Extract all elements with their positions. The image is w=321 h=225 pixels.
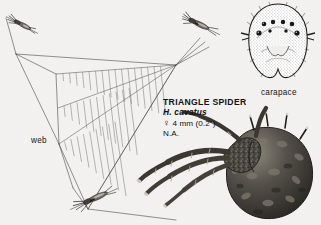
main-spider-figure bbox=[0, 0, 321, 225]
female-symbol-icon: ♀ bbox=[163, 118, 170, 128]
species-size: ♀ 4 mm (0.2″) bbox=[163, 119, 247, 128]
species-common-name: TRIANGLE SPIDER bbox=[163, 98, 247, 107]
carapace-caption: carapace bbox=[261, 88, 297, 97]
size-value: 4 mm (0.2″) bbox=[172, 119, 215, 128]
illustration-plate: TRIANGLE SPIDER H. cavatus ♀ 4 mm (0.2″)… bbox=[0, 0, 321, 225]
web-caption: web bbox=[31, 136, 47, 145]
species-scientific-name: H. cavatus bbox=[163, 108, 247, 117]
species-info-block: TRIANGLE SPIDER H. cavatus ♀ 4 mm (0.2″)… bbox=[163, 98, 247, 138]
species-range: N.A. bbox=[163, 130, 247, 138]
